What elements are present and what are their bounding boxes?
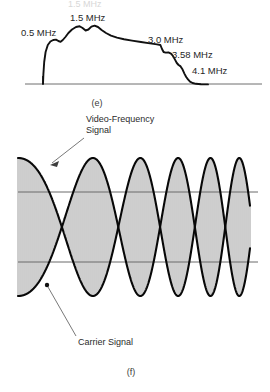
label-1-5-mhz: 1.5 MHz — [70, 12, 106, 23]
carrier-marker-dot — [45, 283, 49, 287]
carrier-signal-leader-line — [48, 287, 76, 336]
label-4-1-mhz: 4.1 MHz — [192, 65, 228, 76]
figure-panel: 1.5 MHz 1.5 MHz 0.5 MHz 3.0 MHz 3.58 MHz… — [0, 0, 270, 392]
label-3-0-mhz: 3.0 MHz — [148, 34, 184, 45]
label-3-58-mhz: 3.58 MHz — [172, 49, 213, 60]
carrier-fill-lines — [18, 158, 250, 296]
caption-e: (e) — [92, 98, 103, 108]
figure-svg: 1.5 MHz 1.5 MHz 0.5 MHz 3.0 MHz 3.58 MHz… — [0, 0, 270, 392]
figure-e-group: 1.5 MHz 0.5 MHz 3.0 MHz 3.58 MHz 4.1 MHz… — [21, 12, 262, 108]
video-signal-leader-line — [52, 138, 84, 163]
video-signal-label-line2: Signal — [86, 125, 111, 135]
figure-f-group: Video-Frequency Signal Carrier Signal (f… — [18, 114, 258, 377]
label-0-5-mhz: 0.5 MHz — [21, 27, 57, 38]
caption-f: (f) — [127, 367, 136, 377]
carrier-signal-label: Carrier Signal — [78, 337, 133, 347]
video-signal-label-line1: Video-Frequency — [86, 114, 155, 124]
video-signal-arrowhead — [50, 161, 59, 167]
cropped-header-text: 1.5 MHz — [68, 0, 102, 9]
